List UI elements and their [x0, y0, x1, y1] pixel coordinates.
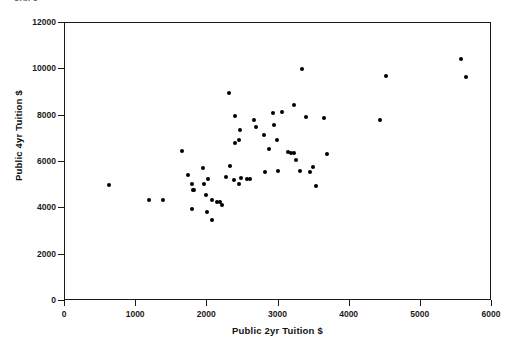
scatter-point	[237, 138, 241, 142]
scatter-point	[233, 114, 237, 118]
scatter-point	[192, 188, 196, 192]
scatter-point	[239, 176, 243, 180]
scatter-point	[201, 166, 205, 170]
scatter-point	[204, 193, 208, 197]
scatter-point	[304, 115, 308, 119]
x-axis-tick-mark	[420, 300, 421, 306]
scatter-point	[147, 198, 151, 202]
scatter-point	[224, 175, 228, 179]
scatter-point	[190, 182, 194, 186]
scatter-point	[378, 118, 382, 122]
y-axis-tick-mark	[58, 68, 64, 69]
scatter-plot-figure: stack Public 4yr Tuition $ 0200040006000…	[0, 0, 518, 354]
scatter-point	[161, 198, 165, 202]
scatter-point	[220, 203, 224, 207]
y-axis-tick-label: 6000	[4, 156, 56, 166]
y-axis-tick-label: 12000	[4, 17, 56, 27]
scatter-point	[267, 147, 271, 151]
x-axis-tick-mark	[491, 300, 492, 306]
y-axis-tick-mark	[58, 115, 64, 116]
scatter-point	[459, 57, 463, 61]
x-axis-tick-label: 0	[34, 309, 94, 319]
scatter-point	[210, 198, 214, 202]
scatter-point	[298, 169, 302, 173]
scatter-point	[228, 164, 232, 168]
scatter-point	[210, 218, 214, 222]
scatter-point	[186, 173, 190, 177]
x-axis-tick-mark	[206, 300, 207, 306]
scatter-point	[384, 74, 388, 78]
x-axis-tick-mark	[349, 300, 350, 306]
y-axis-tick-label: 10000	[4, 63, 56, 73]
scatter-point	[311, 165, 315, 169]
y-axis-tick-mark	[58, 207, 64, 208]
scatter-point	[206, 177, 210, 181]
y-axis-tick-mark	[58, 161, 64, 162]
x-axis-tick-label: 2000	[176, 309, 236, 319]
scatter-point	[202, 182, 206, 186]
x-axis-tick-label: 4000	[319, 309, 379, 319]
y-axis-tick-label: 0	[4, 295, 56, 305]
x-axis-tick-mark	[64, 300, 65, 306]
scatter-point	[294, 158, 298, 162]
scatter-point	[314, 184, 318, 188]
scatter-point	[275, 138, 279, 142]
x-axis-tick-label: 6000	[461, 309, 518, 319]
scatter-point	[322, 116, 326, 120]
x-axis-tick-mark	[135, 300, 136, 306]
scatter-point	[272, 123, 276, 127]
scatter-point	[180, 149, 184, 153]
y-axis: Public 4yr Tuition $ 0200040006000800010…	[0, 0, 56, 354]
scatter-point	[205, 210, 209, 214]
scatter-point	[107, 183, 111, 187]
plot-area	[64, 22, 491, 300]
scatter-point	[464, 75, 468, 79]
x-axis-tick-mark	[278, 300, 279, 306]
y-axis-tick-label: 2000	[4, 249, 56, 259]
scatter-point	[232, 178, 236, 182]
scatter-point	[227, 91, 231, 95]
y-axis-tick-label: 4000	[4, 202, 56, 212]
x-axis-title: Public 2yr Tuition $	[64, 325, 491, 336]
scatter-point	[190, 207, 194, 211]
scatter-point	[252, 118, 256, 122]
scatter-point	[300, 67, 304, 71]
scatter-point	[263, 170, 267, 174]
data-points-layer	[65, 23, 490, 299]
scatter-point	[237, 182, 241, 186]
x-axis-tick-label: 1000	[105, 309, 165, 319]
scatter-point	[254, 125, 258, 129]
scatter-point	[271, 111, 275, 115]
y-axis-title: Public 4yr Tuition $	[13, 66, 24, 206]
scatter-point	[238, 128, 242, 132]
y-axis-tick-mark	[58, 254, 64, 255]
scatter-point	[292, 151, 296, 155]
x-axis-tick-label: 5000	[390, 309, 450, 319]
y-axis-tick-label: 8000	[4, 110, 56, 120]
x-axis-tick-label: 3000	[248, 309, 308, 319]
y-axis-tick-mark	[58, 22, 64, 23]
scatter-point	[292, 103, 296, 107]
scatter-point	[280, 110, 284, 114]
scatter-point	[248, 177, 252, 181]
scatter-point	[262, 133, 266, 137]
scatter-point	[308, 170, 312, 174]
scatter-point	[276, 169, 280, 173]
scatter-point	[325, 152, 329, 156]
